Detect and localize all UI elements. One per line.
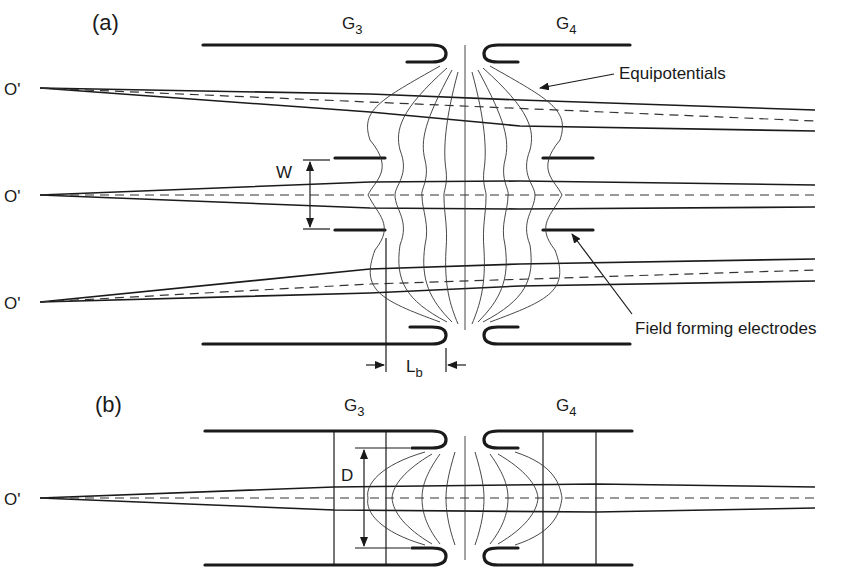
beam-middle <box>40 181 815 209</box>
beam-bottom <box>40 259 815 302</box>
g4-bottom-electrode-b <box>484 548 632 565</box>
panel-a: (a) G3 G4 <box>4 10 816 380</box>
g3-top-electrode <box>203 45 446 62</box>
field-electrodes-arrow <box>572 234 632 314</box>
d-label: D <box>341 466 353 485</box>
g3-label-b: G3 <box>344 396 364 419</box>
g4-top-electrode-b <box>484 431 632 448</box>
equipotentials-label: Equipotentials <box>619 64 726 83</box>
g4-bottom-electrode <box>484 327 630 344</box>
field-electrodes-label: Field forming electrodes <box>635 319 816 338</box>
electron-lens-diagram: (a) G3 G4 <box>0 0 868 581</box>
beam-b <box>40 484 815 512</box>
source-label-top: O' <box>4 80 20 99</box>
lb-label: Lb <box>406 357 423 380</box>
g3-top-electrode-b <box>205 431 446 448</box>
g3-bottom-electrode-b <box>205 548 446 565</box>
equipotentials-arrow <box>540 74 614 88</box>
equipotentials-a <box>368 45 563 330</box>
g4-top-electrode <box>484 45 630 62</box>
equipotentials-b <box>368 436 562 560</box>
g4-label-a: G4 <box>556 14 576 37</box>
panel-b-label: (b) <box>95 392 122 417</box>
w-label: W <box>276 163 292 182</box>
lb-dimension: Lb <box>366 238 466 380</box>
g3-bottom-electrode <box>203 327 446 344</box>
g4-label-b: G4 <box>556 396 576 419</box>
beam-top <box>40 88 815 131</box>
g3-label-a: G3 <box>342 14 362 37</box>
source-label-b: O' <box>4 490 20 509</box>
panel-a-label: (a) <box>92 10 119 35</box>
source-label-bottom: O' <box>4 294 20 313</box>
source-label-middle: O' <box>4 187 20 206</box>
panel-b: (b) G3 G4 <box>4 392 815 565</box>
